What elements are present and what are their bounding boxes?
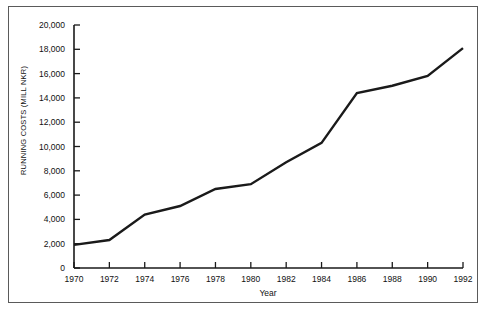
y-axis-tick-label: 8,000: [44, 166, 66, 176]
line-chart-plot: 02,0004,0006,0008,00010,00012,00014,0001…: [0, 0, 488, 313]
chart-figure: 02,0004,0006,0008,00010,00012,00014,0001…: [0, 0, 488, 313]
y-axis-title: RUNNING COSTS (MILL NKR): [19, 66, 28, 175]
data-series-line: [74, 48, 463, 245]
x-axis-tick-label: 1974: [135, 274, 154, 284]
y-axis-tick-label: 2,000: [44, 239, 66, 249]
x-axis-tick-label: 1976: [171, 274, 190, 284]
x-axis-tick-label: 1982: [277, 274, 296, 284]
y-axis-ticks: [74, 25, 80, 268]
x-axis-tick-label: 1980: [241, 274, 260, 284]
y-axis-tick-label: 18,000: [39, 44, 65, 54]
y-axis-tick-label: 12,000: [39, 117, 65, 127]
y-axis-tick-label: 14,000: [39, 93, 65, 103]
x-axis-tick-labels: 1970197219741976197819801982198419861988…: [65, 274, 473, 284]
x-axis-tick-label: 1990: [418, 274, 437, 284]
y-axis-tick-label: 6,000: [44, 190, 66, 200]
x-axis-title: Year: [259, 288, 276, 298]
x-axis-tick-label: 1992: [454, 274, 473, 284]
y-axis-tick-label: 4,000: [44, 214, 66, 224]
y-axis-tick-label: 20,000: [39, 20, 65, 30]
y-axis-tick-label: 0: [60, 263, 65, 273]
x-axis-tick-label: 1972: [100, 274, 119, 284]
y-axis-tick-label: 10,000: [39, 142, 65, 152]
y-axis-tick-label: 16,000: [39, 69, 65, 79]
x-axis-ticks: [74, 262, 463, 268]
x-axis-tick-label: 1978: [206, 274, 225, 284]
x-axis-tick-label: 1970: [65, 274, 84, 284]
y-axis-tick-labels: 02,0004,0006,0008,00010,00012,00014,0001…: [39, 20, 65, 273]
x-axis-tick-label: 1988: [383, 274, 402, 284]
x-axis-tick-label: 1984: [312, 274, 331, 284]
x-axis-tick-label: 1986: [347, 274, 366, 284]
